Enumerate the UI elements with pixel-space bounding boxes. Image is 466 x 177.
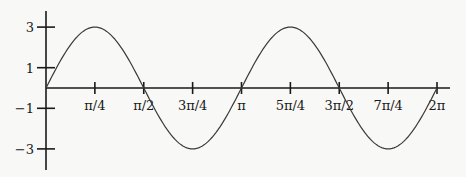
x-tick-label: π <box>237 98 246 113</box>
x-tick-label: 7π/4 <box>373 98 402 113</box>
x-tick-label: 3π/4 <box>178 98 207 113</box>
y-tick-label: 1 <box>26 61 34 76</box>
y-tick-label: −3 <box>15 142 34 157</box>
x-tick-label: π/4 <box>84 98 105 113</box>
x-tick-label: 3π/2 <box>325 98 354 113</box>
x-tick-label: π/2 <box>133 98 154 113</box>
y-tick-label: 3 <box>26 20 34 35</box>
x-ticks: π/4π/23π/4π5π/43π/27π/42π <box>84 82 446 113</box>
sine-chart: π/4π/23π/4π5π/43π/27π/42π 31−1−3 <box>0 0 466 177</box>
x-tick-label: 5π/4 <box>276 98 305 113</box>
y-tick-label: −1 <box>15 101 34 116</box>
